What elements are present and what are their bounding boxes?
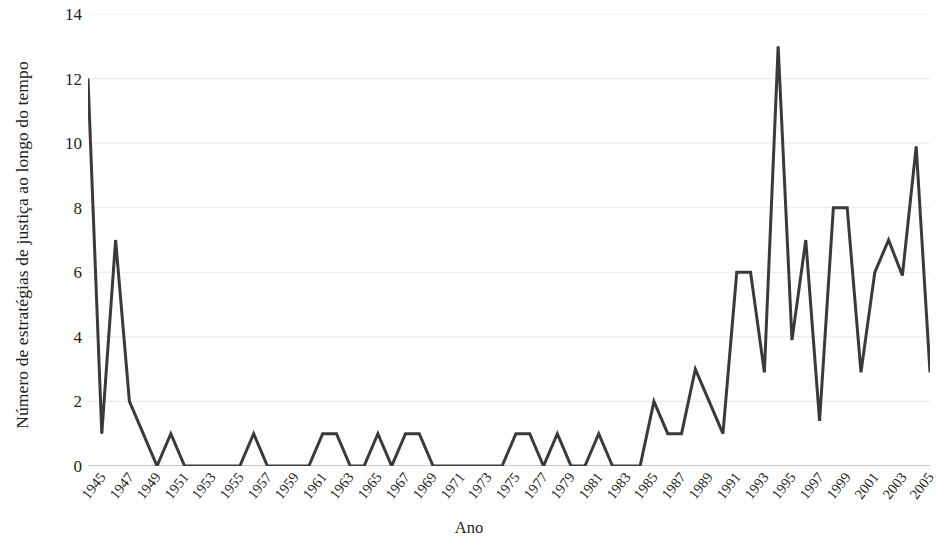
x-axis-tick-label: 2005 xyxy=(907,470,937,502)
x-axis-tick-label: 1961 xyxy=(300,470,330,502)
x-axis-tick-label: 1989 xyxy=(686,470,716,502)
x-axis-tick-label: 1949 xyxy=(134,470,164,502)
x-axis-tick-label: 1987 xyxy=(659,470,689,502)
x-axis-tick-label: 1963 xyxy=(328,470,358,502)
x-axis-tick-label: 1997 xyxy=(797,470,827,502)
x-axis-tick-label: 1977 xyxy=(521,470,551,502)
x-axis-tick-label: 1947 xyxy=(107,470,137,502)
x-axis-tick-label: 1955 xyxy=(217,470,247,502)
x-axis-tick-label: 1979 xyxy=(548,470,578,502)
x-axis-tick-label: 1991 xyxy=(714,470,744,502)
x-axis-tick-label: 1965 xyxy=(355,470,385,502)
x-axis-title: Ano xyxy=(0,518,938,538)
x-axis-tick-label: 1999 xyxy=(825,470,855,502)
x-axis-tick-label: 1983 xyxy=(604,470,634,502)
x-axis-tick-label: 2003 xyxy=(880,470,910,502)
x-axis-tick-label: 1975 xyxy=(493,470,523,502)
x-axis-tick-label: 1985 xyxy=(631,470,661,502)
x-axis-tick-label: 1951 xyxy=(162,470,192,502)
x-axis-tick-label: 1973 xyxy=(466,470,496,502)
x-axis-tick-label: 1993 xyxy=(742,470,772,502)
x-axis-tick-label: 1953 xyxy=(190,470,220,502)
x-axis-tick-labels: 1945194719491951195319551957195919611963… xyxy=(0,0,938,548)
x-axis-tick-label: 1945 xyxy=(79,470,109,502)
x-axis-tick-label: 1971 xyxy=(438,470,468,502)
x-axis-tick-label: 1959 xyxy=(272,470,302,502)
x-axis-tick-label: 1957 xyxy=(245,470,275,502)
x-axis-tick-label: 1981 xyxy=(576,470,606,502)
x-axis-tick-label: 1995 xyxy=(769,470,799,502)
x-axis-tick-label: 1967 xyxy=(383,470,413,502)
x-axis-tick-label: 2001 xyxy=(852,470,882,502)
line-chart: Número de estratégias de justiça ao long… xyxy=(0,0,938,548)
x-axis-tick-label: 1969 xyxy=(410,470,440,502)
